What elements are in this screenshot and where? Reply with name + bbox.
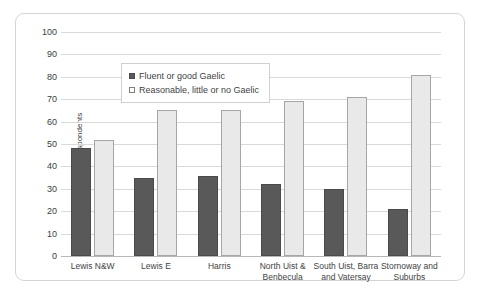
- chart-container: % of respondents 0102030405060708090100 …: [15, 13, 465, 281]
- legend-item: Reasonable, little or no Gaelic: [129, 83, 259, 97]
- bar: [347, 97, 367, 256]
- legend-label: Reasonable, little or no Gaelic: [139, 85, 259, 95]
- y-axis-tick-label: 40: [17, 162, 57, 171]
- legend-label: Fluent or good Gaelic: [139, 71, 225, 81]
- bar: [411, 75, 431, 256]
- bar: [284, 101, 304, 256]
- bar: [71, 148, 91, 256]
- y-axis-tick-label: 50: [17, 140, 57, 149]
- bar: [157, 110, 177, 256]
- legend-item: Fluent or good Gaelic: [129, 69, 259, 83]
- bar: [388, 209, 408, 256]
- chart-legend: Fluent or good GaelicReasonable, little …: [121, 63, 270, 103]
- gridline: [61, 256, 441, 257]
- y-axis-tick-label: 90: [17, 50, 57, 59]
- bar: [324, 189, 344, 256]
- bars: [378, 32, 441, 256]
- y-axis-tick-label: 0: [17, 252, 57, 261]
- bar: [261, 184, 281, 256]
- y-axis-tick-label: 80: [17, 72, 57, 81]
- bar-group: Stornoway andSuburbs: [378, 32, 441, 256]
- legend-swatch-icon: [129, 73, 135, 79]
- bar: [198, 176, 218, 256]
- legend-swatch-icon: [129, 87, 135, 93]
- y-axis-tick-label: 10: [17, 229, 57, 238]
- plot-area: % of respondents 0102030405060708090100 …: [61, 32, 441, 256]
- y-axis-tick-label: 60: [17, 117, 57, 126]
- bars: [61, 32, 124, 256]
- bars: [314, 32, 377, 256]
- y-axis-tick-label: 70: [17, 95, 57, 104]
- bar: [221, 110, 241, 256]
- bar-group: Lewis N&W: [61, 32, 124, 256]
- bar: [94, 140, 114, 256]
- x-axis-category-label: Stornoway andSuburbs: [370, 261, 448, 283]
- bar-group: South Uist, Barraand Vatersay: [314, 32, 377, 256]
- y-axis-tick-label: 20: [17, 207, 57, 216]
- y-axis-tick-label: 100: [17, 28, 57, 37]
- y-axis-tick-label: 30: [17, 184, 57, 193]
- bar: [134, 178, 154, 256]
